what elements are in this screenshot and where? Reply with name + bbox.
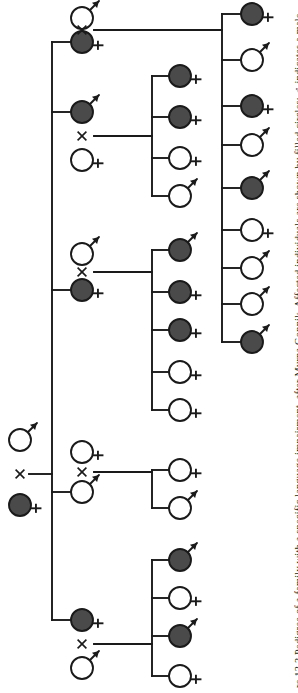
person-II-3 <box>71 279 103 301</box>
affected-female-symbol <box>169 106 191 128</box>
affected-female-symbol <box>169 65 191 87</box>
affected-female-symbol <box>9 494 31 516</box>
person-II-4 <box>71 475 99 503</box>
mating-cross <box>78 640 87 649</box>
unaffected-female-symbol <box>169 399 191 421</box>
person-III-4 <box>241 128 269 156</box>
mating-cross <box>78 468 87 477</box>
person-II-2 <box>71 95 99 123</box>
person-III-12 <box>169 147 201 169</box>
unaffected-female-symbol <box>241 219 263 241</box>
unaffected-female-symbol <box>71 149 93 171</box>
person-III-3 <box>241 95 273 117</box>
affected-female-symbol <box>71 31 93 53</box>
person-III-9 <box>241 325 269 353</box>
affected-female-symbol <box>241 95 263 117</box>
unaffected-female-symbol <box>169 147 191 169</box>
unaffected-female-symbol <box>169 665 191 687</box>
person-III-22 <box>169 587 201 609</box>
person-II-5 <box>71 609 103 631</box>
person-III-11 <box>169 106 201 128</box>
person-II-1s <box>71 1 99 29</box>
person-I-2 <box>9 494 41 516</box>
person-III-8 <box>241 287 269 315</box>
person-III-10 <box>169 65 201 87</box>
affected-female-symbol <box>169 319 191 341</box>
person-III-2 <box>241 43 269 71</box>
person-III-21 <box>169 543 197 571</box>
unaffected-female-symbol <box>169 459 191 481</box>
person-III-17 <box>169 361 201 383</box>
affected-female-symbol <box>71 609 93 631</box>
unaffected-female-symbol <box>169 587 191 609</box>
person-III-19 <box>169 459 201 481</box>
person-I-1 <box>9 423 37 451</box>
unaffected-female-symbol <box>71 441 93 463</box>
unaffected-female-symbol <box>169 361 191 383</box>
affected-female-symbol <box>241 3 263 25</box>
person-II-4s <box>71 441 103 463</box>
person-III-24 <box>169 665 201 687</box>
person-III-7 <box>241 251 269 279</box>
mating-cross <box>16 470 25 479</box>
mating-cross <box>78 132 87 141</box>
person-III-18 <box>169 399 201 421</box>
person-III-13 <box>169 179 197 207</box>
person-II-2s <box>71 149 103 171</box>
mating-cross <box>78 268 87 277</box>
affected-female-symbol <box>169 281 191 303</box>
person-III-6 <box>241 219 273 241</box>
person-II-3s <box>71 237 99 265</box>
person-III-15 <box>169 281 201 303</box>
person-III-23 <box>169 619 197 647</box>
person-III-14 <box>169 233 197 261</box>
person-III-5 <box>241 171 269 199</box>
pedigree-diagram <box>0 0 298 693</box>
person-II-1 <box>71 31 103 53</box>
affected-female-symbol <box>71 279 93 301</box>
person-III-20 <box>169 491 197 519</box>
person-II-5s <box>71 651 99 679</box>
person-III-16 <box>169 319 201 341</box>
person-III-1 <box>241 3 273 25</box>
